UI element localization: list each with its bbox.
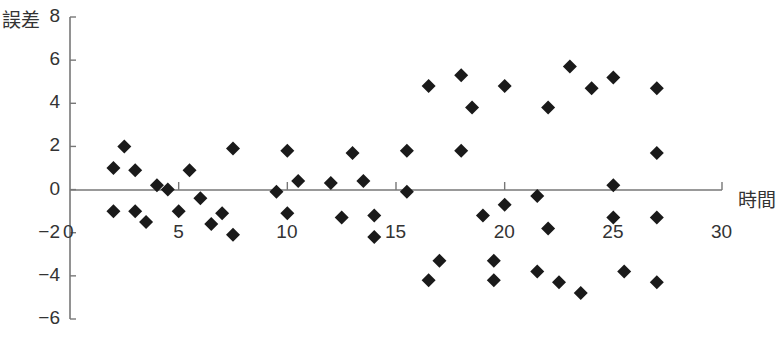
data-point-diamond bbox=[269, 185, 283, 199]
data-point-diamond bbox=[454, 144, 468, 158]
data-point-diamond bbox=[617, 265, 631, 279]
data-point-diamond bbox=[574, 286, 588, 300]
data-point-diamond bbox=[215, 206, 229, 220]
data-point-diamond bbox=[650, 81, 664, 95]
data-point-diamond bbox=[324, 176, 338, 190]
data-point-diamond bbox=[563, 60, 577, 74]
data-point-diamond bbox=[291, 174, 305, 188]
data-point-diamond bbox=[367, 208, 381, 222]
data-point-diamond bbox=[541, 101, 555, 115]
data-point-diamond bbox=[530, 265, 544, 279]
y-tick-label: 8 bbox=[10, 5, 60, 27]
data-point-diamond bbox=[193, 191, 207, 205]
data-point-diamond bbox=[465, 101, 479, 115]
y-tick-label: 0 bbox=[10, 178, 60, 200]
y-tick-label: 4 bbox=[10, 91, 60, 113]
data-point-diamond bbox=[650, 275, 664, 289]
x-axis-title: 時間 bbox=[738, 185, 776, 212]
data-point-diamond bbox=[172, 204, 186, 218]
x-tick-label: 0 bbox=[63, 221, 74, 243]
data-point-diamond bbox=[204, 217, 218, 231]
x-tick-label: 25 bbox=[602, 221, 623, 243]
x-tick-label: 10 bbox=[276, 221, 297, 243]
data-point-diamond bbox=[606, 70, 620, 84]
data-point-diamond bbox=[487, 254, 501, 268]
data-point-diamond bbox=[585, 81, 599, 95]
x-tick-label: 15 bbox=[385, 221, 406, 243]
data-point-diamond bbox=[106, 204, 120, 218]
data-point-diamond bbox=[552, 275, 566, 289]
data-point-diamond bbox=[128, 204, 142, 218]
data-point-diamond bbox=[454, 68, 468, 82]
data-point-diamond bbox=[400, 144, 414, 158]
data-point-diamond bbox=[422, 79, 436, 93]
data-point-diamond bbox=[476, 208, 490, 222]
data-point-diamond bbox=[106, 161, 120, 175]
data-points bbox=[106, 60, 663, 301]
data-point-diamond bbox=[367, 230, 381, 244]
data-point-diamond bbox=[346, 146, 360, 160]
data-point-diamond bbox=[117, 139, 131, 153]
x-tick-label: 20 bbox=[494, 221, 515, 243]
y-tick-label: −6 bbox=[10, 307, 60, 329]
y-tick-label: −4 bbox=[10, 264, 60, 286]
data-point-diamond bbox=[422, 273, 436, 287]
data-point-diamond bbox=[432, 254, 446, 268]
y-tick-label: 2 bbox=[10, 134, 60, 156]
x-tick-label: 5 bbox=[173, 221, 184, 243]
data-point-diamond bbox=[128, 163, 142, 177]
y-tick-label: 6 bbox=[10, 48, 60, 70]
data-point-diamond bbox=[226, 142, 240, 156]
y-tick-label: −2 bbox=[10, 221, 60, 243]
scatter-plot bbox=[0, 0, 782, 344]
data-point-diamond bbox=[498, 198, 512, 212]
data-point-diamond bbox=[356, 174, 370, 188]
data-point-diamond bbox=[335, 211, 349, 225]
data-point-diamond bbox=[650, 146, 664, 160]
data-point-diamond bbox=[139, 215, 153, 229]
data-point-diamond bbox=[280, 206, 294, 220]
data-point-diamond bbox=[498, 79, 512, 93]
x-tick-label: 30 bbox=[711, 221, 732, 243]
data-point-diamond bbox=[400, 185, 414, 199]
data-point-diamond bbox=[650, 211, 664, 225]
data-point-diamond bbox=[226, 228, 240, 242]
data-point-diamond bbox=[530, 189, 544, 203]
data-point-diamond bbox=[183, 163, 197, 177]
data-point-diamond bbox=[280, 144, 294, 158]
data-point-diamond bbox=[541, 221, 555, 235]
data-point-diamond bbox=[487, 273, 501, 287]
